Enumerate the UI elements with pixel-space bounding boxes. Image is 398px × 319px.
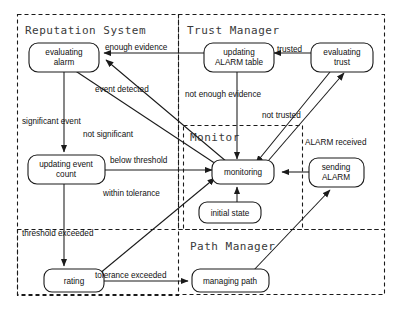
label-not-significant: not significant — [83, 130, 134, 139]
state-evaluating-alarm[interactable]: evaluating alarm — [29, 43, 99, 72]
state-updating-alarm-table-line2: ALARM table — [215, 58, 264, 67]
label-event-detected: event detected — [95, 85, 149, 94]
state-rating-label: rating — [64, 277, 85, 286]
state-evaluating-alarm-line1: evaluating — [45, 48, 83, 57]
state-managing-path-label: managing path — [203, 277, 258, 286]
label-not-enough-evidence: not enough evidence — [185, 90, 261, 99]
states: evaluating alarm updating ALARM table ev… — [28, 43, 373, 292]
state-updating-event-count-line2: count — [56, 170, 77, 179]
state-sending-alarm-line1: sending — [322, 163, 351, 172]
state-evaluating-trust[interactable]: evaluating trust — [311, 43, 373, 72]
edge-managing-path-to-sending-alarm — [252, 190, 330, 272]
edge-event-detected — [106, 60, 227, 162]
state-updating-alarm-table[interactable]: updating ALARM table — [204, 43, 274, 72]
state-monitoring[interactable]: monitoring — [212, 160, 274, 184]
state-managing-path[interactable]: managing path — [192, 269, 269, 292]
region-title-trust-manager: Trust Manager — [187, 24, 280, 37]
label-below-threshold: below threshold — [110, 156, 168, 165]
region-title-reputation-system: Reputation System — [25, 24, 146, 37]
state-updating-event-count-line1: updating event — [39, 160, 93, 169]
label-alarm-received: ALARM received — [305, 138, 367, 147]
state-evaluating-trust-line1: evaluating — [323, 48, 361, 57]
state-evaluating-trust-line2: trust — [334, 58, 351, 67]
label-not-trusted: not trusted — [262, 111, 301, 120]
state-updating-alarm-table-line1: updating — [223, 48, 255, 57]
label-trusted: trusted — [277, 45, 302, 54]
diagram-canvas: Reputation System Trust Manager Monitor … — [0, 0, 398, 319]
state-monitoring-label: monitoring — [224, 168, 263, 177]
state-updating-event-count[interactable]: updating event count — [28, 155, 105, 184]
label-within-tolerance: within tolerance — [102, 189, 160, 198]
state-evaluating-alarm-line2: alarm — [54, 58, 75, 67]
state-sending-alarm-line2: ALARM — [322, 173, 350, 182]
state-sending-alarm[interactable]: sending ALARM — [309, 158, 364, 187]
state-initial-state-label: initial state — [211, 209, 250, 218]
label-significant-event: significant event — [22, 117, 81, 126]
state-diagram-svg: Reputation System Trust Manager Monitor … — [0, 0, 398, 319]
label-threshold-exceeded: threshold exceeded — [22, 229, 94, 238]
label-tolerance-exceeded: tolerance exceeded — [95, 271, 167, 280]
label-enough-evidence: enough evidence — [105, 43, 168, 52]
region-title-path-manager: Path Manager — [190, 240, 275, 253]
state-initial-state[interactable]: initial state — [199, 202, 261, 223]
